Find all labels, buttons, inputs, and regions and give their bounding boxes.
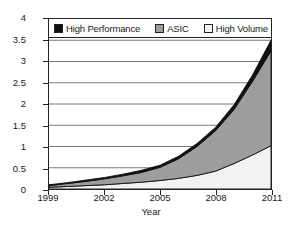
legend-swatch-high-volume-icon [204,24,213,33]
y-axis-tick-label: 0.5 [0,164,26,174]
stacked-area-plot [49,19,271,189]
legend-label-high-performance: High Performance [66,23,140,34]
plot-area: High Performance ASIC High Volume [48,18,272,190]
legend-entry-asic: ASIC [155,23,189,34]
x-axis-tick-mark [160,190,161,195]
chart-figure: Transistors (billions) 00.511.522.533.54… [0,0,302,232]
legend-entry-high-performance: High Performance [54,23,140,34]
legend-swatch-high-performance-icon [54,24,63,33]
y-axis-tick-label: 0 [0,185,26,195]
y-axis-tick-label: 3 [0,56,26,66]
x-axis-tick-mark [216,190,217,195]
area-series-group [49,40,271,189]
y-axis-tick-label: 3.5 [0,35,26,45]
y-axis-tick-label: 1.5 [0,121,26,131]
x-axis-title: Year [0,206,302,217]
y-axis-tick-label: 2 [0,99,26,109]
legend-label-high-volume: High Volume [216,23,268,34]
y-axis-tick-label: 4 [0,13,26,23]
legend-label-asic: ASIC [167,23,189,34]
x-axis-tick-mark [104,190,105,195]
x-axis-tick-mark [48,190,49,195]
legend-swatch-asic-icon [155,24,164,33]
y-axis-tick-label: 2.5 [0,78,26,88]
legend-entry-high-volume: High Volume [204,23,268,34]
chart-legend: High Performance ASIC High Volume [49,19,272,38]
y-axis-tick-label: 1 [0,142,26,152]
x-axis-tick-mark [272,190,273,195]
